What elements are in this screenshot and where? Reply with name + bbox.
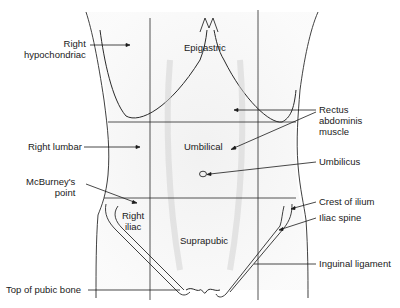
abdominal-regions-diagram: Right hypochondriac Epigastric Right lum… (0, 0, 400, 308)
label-right-iliac: Right iliac (122, 210, 144, 232)
label-line: hypochondriac (24, 49, 86, 60)
callout-iliac-spine: Iliac spine (319, 212, 361, 223)
label-right-lumbar: Right lumbar (28, 141, 82, 152)
label-line: muscle (319, 126, 362, 137)
label-right-hypochondriac: Right hypochondriac (24, 38, 86, 60)
callout-top-of-pubic-bone: Top of pubic bone (6, 284, 81, 295)
label-line: point (26, 187, 75, 198)
label-line: Right (24, 38, 86, 49)
label-suprapubic: Suprapubic (180, 235, 228, 246)
label-line: Rectus (319, 104, 362, 115)
callout-inguinal-ligament: Inguinal ligament (319, 258, 391, 269)
label-line: McBurney's (26, 176, 75, 187)
callout-crest-of-ilium: Crest of ilium (319, 196, 374, 207)
label-line: Right (122, 210, 144, 221)
label-line: iliac (122, 221, 144, 232)
label-umbilical: Umbilical (184, 141, 223, 152)
callout-rectus-abdominis: Rectus abdominis muscle (319, 104, 362, 137)
label-line: abdominis (319, 115, 362, 126)
label-epigastric: Epigastric (184, 42, 226, 53)
callout-mcburneys-point: McBurney's point (26, 176, 75, 198)
callout-umbilicus: Umbilicus (319, 156, 360, 167)
